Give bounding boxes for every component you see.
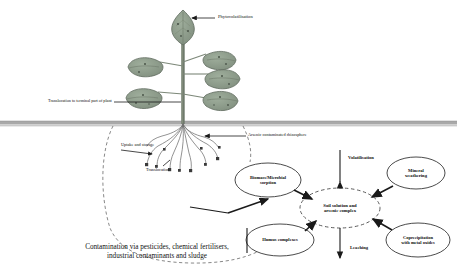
node-line: sorption	[260, 180, 276, 185]
node-line: arsenic complex	[324, 208, 356, 213]
leaf-left-lower	[126, 89, 162, 109]
label-leaching: Leaching	[350, 245, 368, 250]
node-label-soil-solution-arsenic-complex: Soil solution and arsenic complex	[300, 188, 380, 228]
caption-line-2: industrial contaminants and sludge	[67, 252, 247, 261]
node-line: weathering	[405, 173, 427, 178]
label-translocation-terminal: Translocation to terminal part of plant	[48, 99, 112, 104]
arrow-contamination-to-network	[228, 199, 268, 213]
caption-line-1: Contamination via pesticides, chemical f…	[67, 243, 247, 252]
soil-surface-band	[0, 121, 457, 126]
leader-contamination-left	[190, 207, 228, 213]
label-translocation: Translocation	[146, 168, 169, 173]
leaf-right-lower	[203, 91, 238, 110]
node-label-mineral-weathering: Mineral weathering	[387, 157, 445, 189]
node-label-coprecipitation-metal-oxides: Coprecipitation with metal oxides	[386, 223, 450, 257]
root-system	[147, 124, 219, 170]
contamination-caption: Contamination via pesticides, chemical f…	[67, 243, 247, 261]
leaf-right-middle	[205, 70, 240, 89]
label-phytovolatilisation: Phytovolatilisation	[218, 14, 253, 19]
leaf-right-upper	[203, 51, 236, 69]
label-volatilisation: Volatilisation	[348, 155, 374, 160]
label-uptake-storage: Uptake and storage	[121, 143, 154, 148]
plant-illustration	[126, 10, 240, 172]
leaf-left-upper	[128, 58, 163, 77]
label-arsenic-rhizosphere: Arsenic contaminated rhizosphere	[248, 133, 307, 138]
diagram-canvas: Phytovolatilisation Translocation to ter…	[0, 0, 457, 277]
node-label-humus-complexes: Humus complexes	[246, 224, 314, 256]
node-line: with metal oxides	[401, 240, 435, 245]
arrow-uptake-storage	[121, 150, 152, 154]
node-label-biomass-microbial-sorption: Biomass/Microbial sorption	[235, 163, 301, 197]
leaf-top	[172, 10, 195, 45]
node-line: Humus complexes	[262, 237, 298, 242]
leader-translocation-root	[163, 160, 170, 166]
